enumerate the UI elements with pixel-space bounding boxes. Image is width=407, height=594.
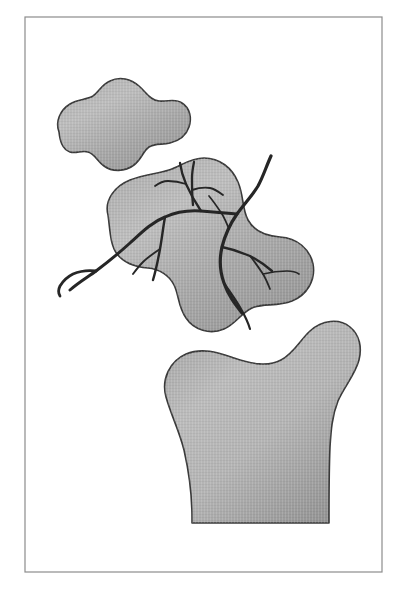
illustration-canvas [0, 0, 407, 594]
anatomical-figure [0, 0, 407, 594]
